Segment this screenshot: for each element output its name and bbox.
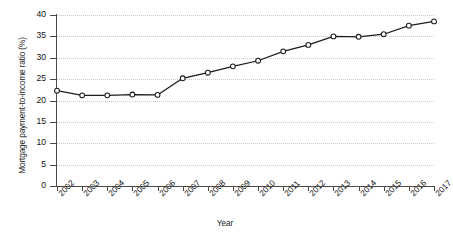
data-point: [231, 64, 236, 69]
data-point: [306, 43, 311, 48]
data-point: [406, 23, 411, 28]
data-point: [256, 58, 261, 63]
data-point: [155, 93, 160, 98]
data-point: [180, 76, 185, 81]
data-point: [105, 93, 110, 98]
data-point: [130, 92, 135, 97]
data-point: [281, 49, 286, 54]
data-point: [381, 32, 386, 37]
data-point: [205, 70, 210, 75]
data-point: [331, 34, 336, 39]
data-point: [432, 19, 437, 24]
series-markers: [55, 19, 437, 98]
data-point: [356, 34, 361, 39]
data-point: [55, 88, 60, 93]
series-line: [57, 21, 434, 95]
data-point: [80, 93, 85, 98]
